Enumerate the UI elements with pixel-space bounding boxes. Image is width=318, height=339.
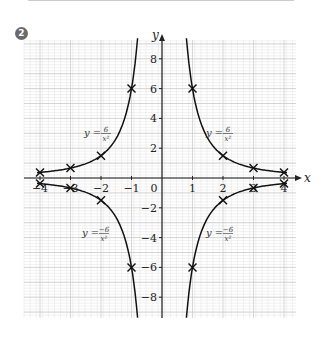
svg-text:−6: −6 <box>223 226 234 234</box>
y-tick-label: 8 <box>150 53 157 66</box>
y-tick-label: 6 <box>150 83 157 96</box>
x-tick-label: −2 <box>93 182 109 195</box>
svg-text:x²: x² <box>101 235 108 243</box>
y-tick-label: 2 <box>150 142 157 155</box>
x-tick-label: 1 <box>189 182 196 195</box>
y-tick-label: −8 <box>141 291 157 304</box>
x-axis-arrow-icon <box>295 175 302 181</box>
svg-text:−6: −6 <box>99 226 110 234</box>
svg-text:y =: y = <box>205 227 223 238</box>
y-axis-label: y <box>151 28 159 42</box>
y-axis-arrow-icon <box>159 34 165 41</box>
x-tick-label: 0 <box>151 182 158 195</box>
grid <box>24 40 296 318</box>
y-tick-label: 4 <box>150 112 157 125</box>
y-tick-label: −2 <box>141 202 157 215</box>
y-tick-label: −6 <box>141 261 157 274</box>
svg-text:x²: x² <box>103 135 110 143</box>
svg-text:6: 6 <box>226 126 231 134</box>
y-tick-label: −4 <box>141 232 157 245</box>
svg-text:y =: y = <box>205 127 223 138</box>
graph: xy−4−3−2−101234−8−6−4−22468y =6x²y =6x²y… <box>0 0 318 339</box>
svg-text:y =: y = <box>81 227 99 238</box>
x-tick-label: 2 <box>220 182 227 195</box>
svg-text:x²: x² <box>225 135 232 143</box>
svg-text:y =: y = <box>83 127 101 138</box>
x-tick-label: −1 <box>123 182 139 195</box>
svg-text:6: 6 <box>104 126 109 134</box>
x-axis-label: x <box>304 171 311 185</box>
svg-text:x²: x² <box>225 235 232 243</box>
